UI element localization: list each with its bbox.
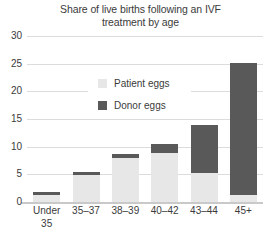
chart-container: Share of live births following an IVF tr… [0,0,269,244]
x-axis-tick-line-1: Under [26,205,68,218]
y-axis-tick-15: 15 [0,113,22,124]
y-axis-tick-25: 25 [0,58,22,69]
bars-layer [27,36,263,202]
x-axis-line [21,202,263,204]
y-axis-tick-10: 10 [0,141,22,152]
chart-title-line-1: Share of live births following an IVF [18,3,263,16]
x-axis-tick-label: 45+ [222,205,264,218]
chart-title: Share of live births following an IVF tr… [18,3,263,29]
x-axis-tick-line-1: 43–44 [183,205,225,218]
x-axis-tick-label: 38–39 [104,205,146,218]
x-axis-tick-line-1: 38–39 [104,205,146,218]
bar-group[interactable] [191,125,218,202]
bar-segment-donor-eggs[interactable] [191,125,218,174]
x-axis-tick-label: 40–42 [144,205,186,218]
y-axis: 302520151050 [0,36,22,202]
x-axis-tick-label: Under35 [26,205,68,230]
legend-label: Donor eggs [114,100,166,111]
x-axis-tick-label: 43–44 [183,205,225,218]
legend-swatch-icon [98,79,107,88]
bar-group[interactable] [112,154,139,202]
bar-segment-patient-eggs[interactable] [191,173,218,202]
bar-segment-patient-eggs[interactable] [112,158,139,202]
bar-segment-patient-eggs[interactable] [230,195,257,202]
legend-swatch-icon [98,101,107,110]
legend-item[interactable]: Patient eggs [98,77,170,89]
y-axis-tick-5: 5 [0,168,22,179]
x-axis-tick-line-1: 35–37 [65,205,107,218]
bar-group[interactable] [230,63,257,202]
y-axis-tick-30: 30 [0,30,22,41]
x-axis-tick-label: 35–37 [65,205,107,218]
bar-segment-donor-eggs[interactable] [230,63,257,196]
x-axis-tick-line-1: 40–42 [144,205,186,218]
x-axis-tick-line-1: 45+ [222,205,264,218]
bar-segment-donor-eggs[interactable] [151,144,178,153]
legend-item[interactable]: Donor eggs [98,99,166,111]
x-axis: Under3535–3738–3940–4243–4445+ [27,205,263,241]
legend-label: Patient eggs [114,78,170,89]
bar-segment-patient-eggs[interactable] [73,175,100,202]
chart-title-line-2: treatment by age [18,16,263,29]
y-axis-tick-20: 20 [0,85,22,96]
bar-group[interactable] [151,144,178,202]
bar-segment-patient-eggs[interactable] [151,153,178,202]
bar-segment-patient-eggs[interactable] [33,195,60,202]
bar-group[interactable] [73,172,100,202]
y-axis-tick-0: 0 [0,196,22,207]
x-axis-tick-line-2: 35 [26,218,68,231]
chart-legend: Patient eggsDonor eggs [88,70,191,115]
bar-group[interactable] [33,192,60,202]
